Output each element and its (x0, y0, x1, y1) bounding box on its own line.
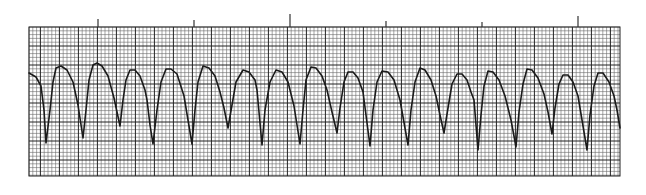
ecg-strip (0, 0, 646, 195)
